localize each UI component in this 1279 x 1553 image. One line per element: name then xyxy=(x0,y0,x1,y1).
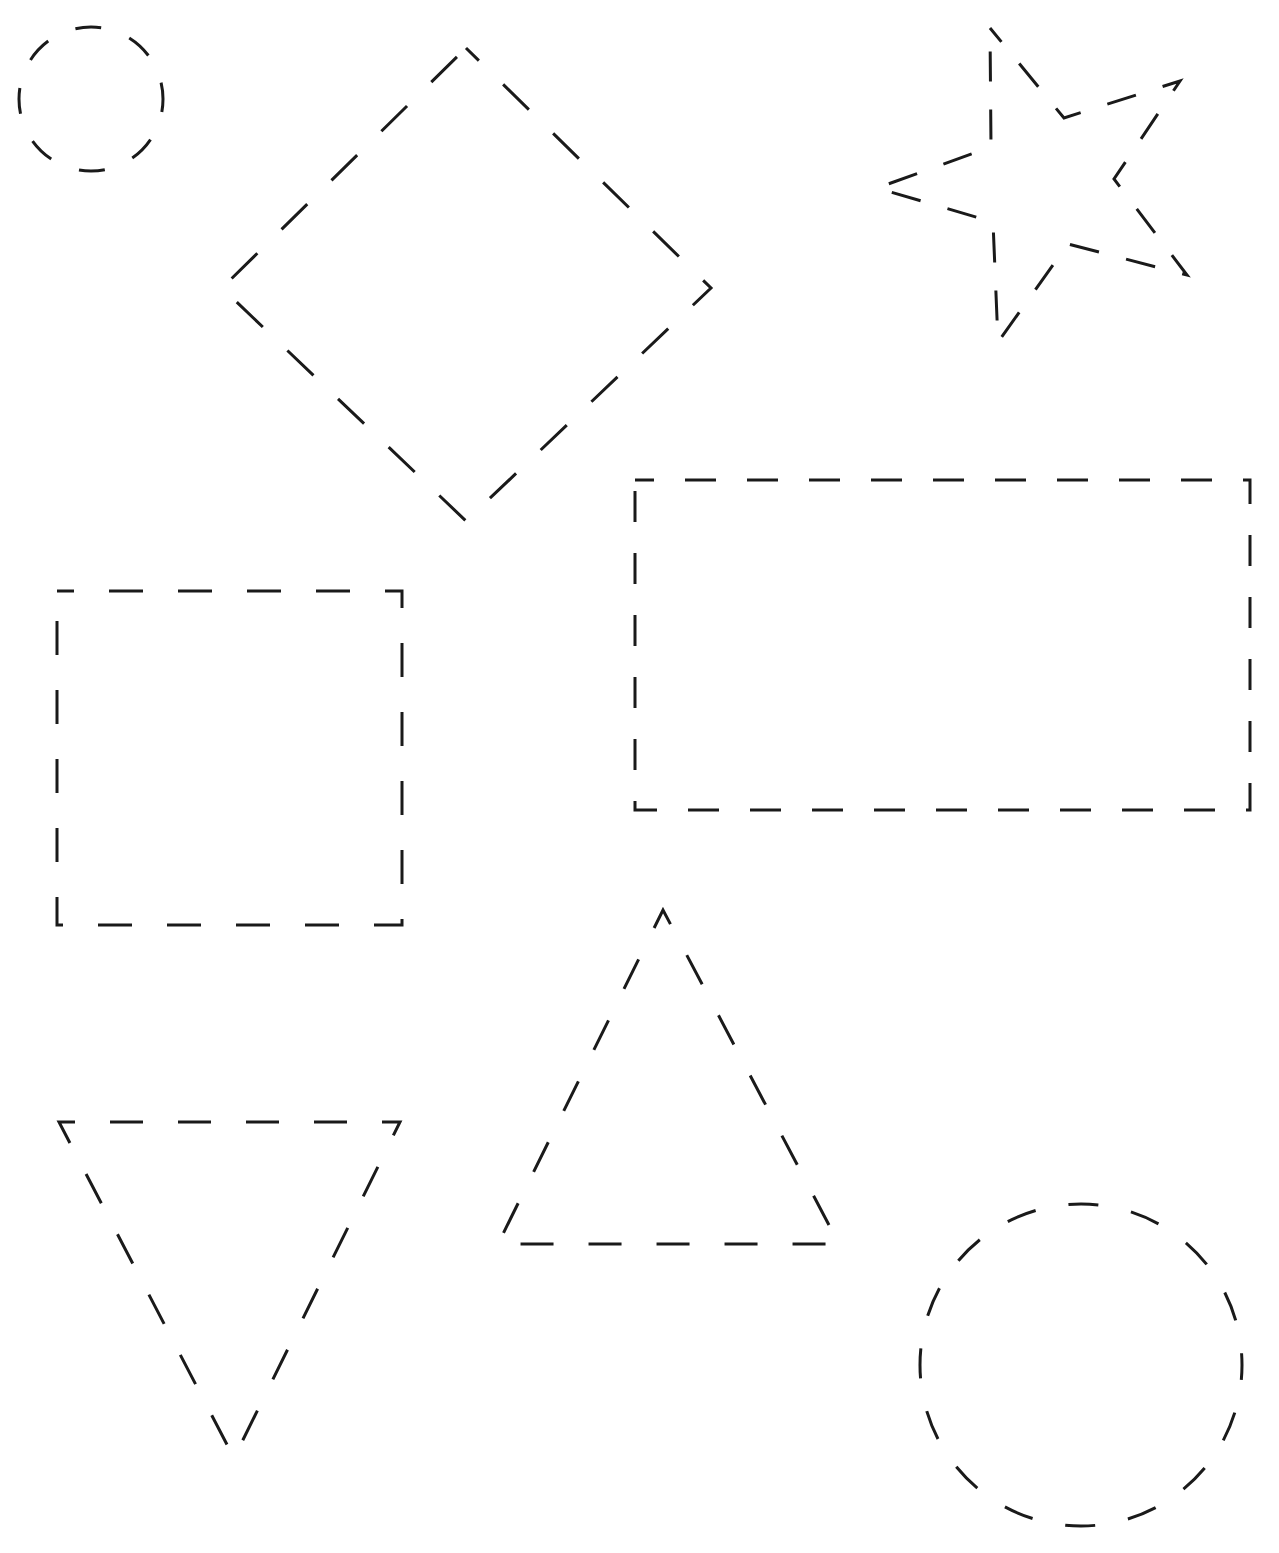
rectangle-tracing-shape xyxy=(635,480,1250,810)
inverted-triangle-tracing-shape xyxy=(59,1122,400,1458)
large-circle-tracing-shape xyxy=(920,1204,1242,1526)
square-tracing-shape xyxy=(57,591,402,925)
upright-triangle-tracing-shape xyxy=(498,910,839,1244)
small-circle-tracing-shape xyxy=(19,27,163,171)
diamond-tracing-shape xyxy=(222,48,711,521)
star-tracing-shape xyxy=(877,28,1187,342)
tracing-worksheet xyxy=(0,0,1279,1553)
